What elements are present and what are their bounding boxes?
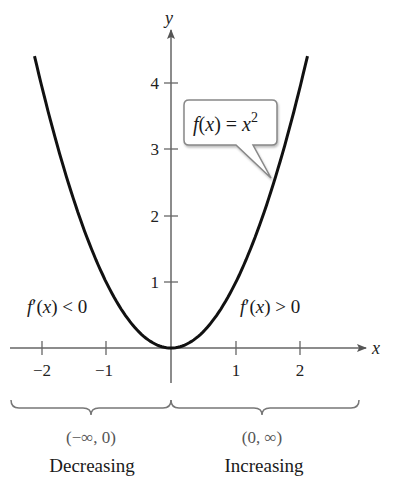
y-tick-label: 3 [151,140,160,159]
function-label: f(x) = x2 [193,110,258,136]
right-interval-label: (0, ∞) [242,428,282,447]
y-tick-label: 1 [151,273,160,292]
x-tick-label: 1 [232,361,241,380]
x-axis-label: x [371,338,380,358]
y-axis-label: y [163,8,173,28]
y-tick-label: 2 [151,207,160,226]
chart-canvas: x y −2 −1 1 2 4 3 2 1 f(x) = x2 f′(x) < … [0,0,393,488]
right-brace [171,400,359,415]
function-callout: f(x) = x2 [184,100,277,178]
x-tick-label: 2 [296,361,305,380]
x-tick-label: −2 [33,361,51,380]
left-interval-label: (−∞, 0) [66,428,116,447]
increasing-label: Increasing [224,455,304,476]
x-tick-label: −1 [95,361,113,380]
left-derivative-label: f′(x) < 0 [27,296,87,318]
y-tick-label: 4 [151,74,160,93]
left-brace [11,400,171,415]
right-derivative-label: f′(x) > 0 [240,296,300,318]
decreasing-label: Decreasing [49,455,135,476]
